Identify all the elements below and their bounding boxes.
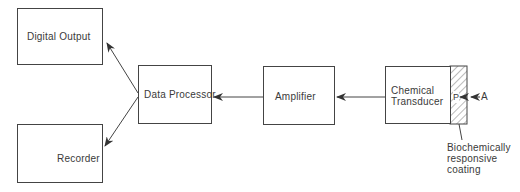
arrow-dp-to-recorder xyxy=(105,97,138,146)
coating-label-3: coating xyxy=(447,164,481,176)
digital-output-label: Digital Output xyxy=(27,31,90,43)
product-marker: P xyxy=(453,91,459,103)
amplifier-label: Amplifier xyxy=(275,91,316,103)
recorder-label: Recorder xyxy=(57,153,100,165)
arrow-dp-to-digital-output xyxy=(107,43,138,93)
chemical-transducer-label-2: Transducer xyxy=(391,96,443,108)
analyte-marker: A xyxy=(481,91,488,103)
data-processor-label: Data Processor xyxy=(144,89,216,101)
coating-leader-line xyxy=(459,124,462,140)
